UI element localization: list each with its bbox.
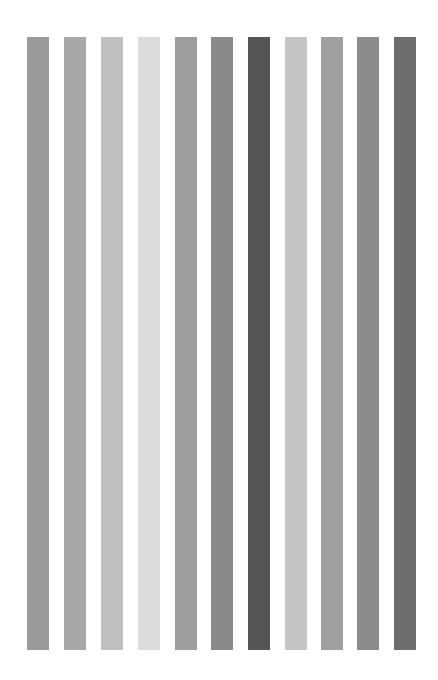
gray-stripe-9 [321, 37, 343, 650]
gray-stripe-1 [27, 37, 49, 650]
gray-stripe-11 [394, 37, 416, 650]
gray-stripe-5 [175, 37, 197, 650]
gray-stripe-6 [211, 37, 233, 650]
gray-stripe-3 [101, 37, 123, 650]
gray-stripe-8 [285, 37, 307, 650]
gray-stripe-4 [138, 37, 160, 650]
gray-stripe-2 [64, 37, 86, 650]
gray-stripe-10 [357, 37, 379, 650]
gray-stripe-7 [248, 37, 270, 650]
